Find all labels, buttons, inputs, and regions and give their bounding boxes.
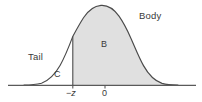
tail-label: Tail [28, 52, 43, 62]
axis-tick-label-negative-z: −z [66, 89, 76, 98]
body-shaded-region [73, 5, 178, 85]
normal-distribution-figure: Tail C B Body −z 0 [0, 0, 202, 102]
axis-tick-label-zero: 0 [102, 89, 107, 98]
body-label: Body [139, 11, 161, 21]
tail-area-label: C [54, 70, 61, 79]
body-area-label: B [101, 40, 107, 49]
